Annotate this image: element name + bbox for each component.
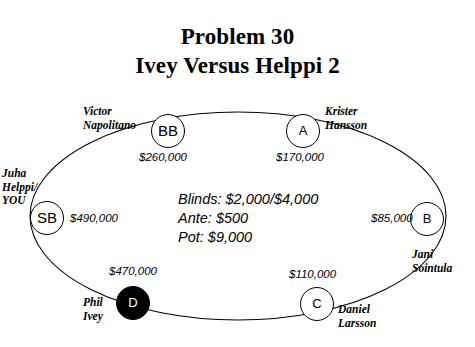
blinds-text: Blinds: $2,000/$4,000	[178, 190, 318, 209]
poker-table-oval	[0, 0, 475, 347]
seat-circle-b[interactable]: B	[410, 202, 444, 236]
stack-amount-b: $85,000	[371, 212, 413, 225]
stack-amount-sb: $490,000	[70, 212, 118, 225]
seat-circle-a[interactable]: A	[286, 114, 320, 148]
stack-amount-c: $110,000	[289, 268, 336, 281]
stack-amount-bb: $260,000	[139, 151, 187, 164]
seat-circle-bb[interactable]: BB	[151, 114, 185, 148]
ante-text: Ante: $500	[178, 209, 318, 228]
pot-text: Pot: $9,000	[178, 228, 318, 247]
seat-label-sb: SB	[37, 209, 57, 226]
stack-amount-a: $170,000	[276, 151, 324, 164]
stack-amount-d: $470,000	[109, 265, 157, 278]
seat-label-bb: BB	[158, 122, 178, 139]
table-center-info: Blinds: $2,000/$4,000 Ante: $500 Pot: $9…	[178, 190, 318, 247]
player-name-phil-ivey: Phil Ivey	[83, 296, 115, 323]
seat-circle-d-dealer[interactable]: D	[116, 286, 150, 320]
seat-label-c: C	[312, 296, 321, 311]
seat-label-d: D	[128, 295, 137, 310]
seat-label-a: A	[299, 123, 308, 138]
seat-circle-c[interactable]: C	[300, 287, 334, 321]
poker-table-diagram: Problem 30 Ivey Versus Helppi 2 BB Victo…	[0, 0, 475, 347]
seat-label-b: B	[423, 211, 432, 226]
player-name-daniel-larsson: Daniel Larsson	[338, 303, 408, 330]
player-name-jani-sointula: Jani Sointula	[412, 248, 474, 275]
player-name-victor-napolitano: Victor Napolitano	[83, 105, 153, 132]
player-name-krister-hansson: Krister Hansson	[325, 105, 397, 132]
player-name-juha-helppi-you: Juha Helppi/ YOU	[2, 167, 48, 208]
